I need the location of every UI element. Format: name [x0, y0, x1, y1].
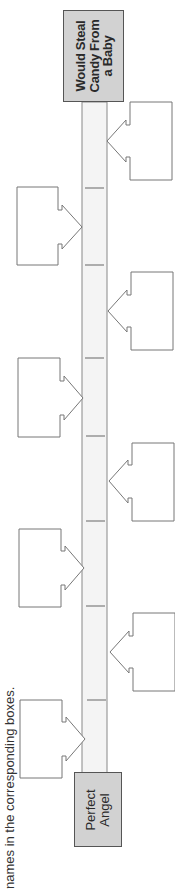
answer-box-left-3[interactable]	[19, 529, 84, 607]
answer-box-left-1[interactable]	[17, 187, 82, 265]
answer-box-right-3[interactable]	[109, 443, 174, 521]
top-end-label-box: Would Steal Candy From a Baby	[63, 10, 124, 102]
top-end-label: Would Steal Candy From a Baby	[73, 11, 114, 101]
answer-box-right-4[interactable]	[110, 613, 175, 691]
bottom-end-label-box: Perfect Angel	[74, 772, 122, 847]
answer-box-left-4[interactable]	[20, 700, 85, 778]
answer-box-right-2[interactable]	[108, 272, 173, 350]
spectrum-bar	[82, 102, 107, 774]
bottom-end-label: Perfect Angel	[84, 775, 111, 845]
answer-box-left-2[interactable]	[18, 358, 83, 437]
answer-box-right-1[interactable]	[107, 102, 172, 180]
